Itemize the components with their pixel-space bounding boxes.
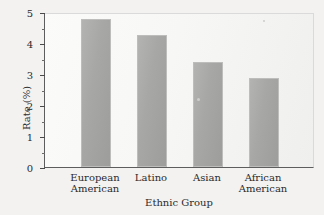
y-tick-label-4: 4 (27, 40, 33, 50)
bar-asian (193, 62, 223, 167)
bar-latino (137, 35, 167, 167)
y-tick-minor-0-5 (42, 153, 45, 154)
scan-speck-icon (263, 20, 265, 22)
y-tick-minor-2-5 (42, 91, 45, 92)
y-tick-minor-4-5 (42, 29, 45, 30)
y-tick-minor-3-5 (42, 60, 45, 61)
y-tick-label-0: 0 (27, 164, 33, 174)
x-category-line-2: American (52, 183, 138, 194)
y-tick-3: 3 (40, 75, 45, 76)
bar-african-american (249, 78, 279, 167)
bar-european-american (81, 19, 111, 167)
y-tick-1: 1 (40, 137, 45, 138)
plot-area: 0 1 2 3 4 5 (44, 13, 314, 168)
bar-chart-figure: Rate (%) 0 1 2 3 4 5 (0, 0, 324, 215)
y-tick-label-3: 3 (27, 71, 33, 81)
x-category-african-american: African American (220, 172, 306, 194)
y-tick-2: 2 (40, 106, 45, 107)
scan-speck-icon (197, 98, 200, 101)
x-category-line-1: African (220, 172, 306, 183)
x-category-line-2: American (220, 183, 306, 194)
y-tick-label-2: 2 (27, 102, 33, 112)
y-tick-5: 5 (40, 13, 45, 14)
x-axis-title: Ethnic Group (44, 197, 314, 208)
y-tick-minor-1-5 (42, 122, 45, 123)
y-tick-0: 0 (40, 168, 45, 169)
y-tick-label-5: 5 (27, 9, 33, 19)
y-tick-label-1: 1 (27, 133, 33, 143)
y-tick-4: 4 (40, 44, 45, 45)
